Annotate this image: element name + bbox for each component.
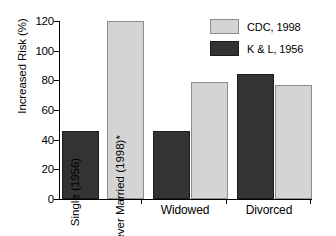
y-tick-mark-60	[54, 110, 59, 111]
x-tick-sep-3	[310, 199, 311, 204]
y-tick-label-100: 100	[28, 45, 54, 57]
bar-divorced-cdc-1998[interactable]	[275, 85, 312, 199]
y-tick-mark-0	[54, 199, 59, 200]
legend-item-cdc-1998[interactable]: CDC, 1998	[210, 19, 303, 34]
legend-item-kl-1956[interactable]: K & L, 1956	[210, 41, 303, 56]
y-tick-mark-40	[54, 140, 59, 141]
y-tick-mark-80	[54, 80, 59, 81]
y-tick-mark-120	[54, 21, 59, 22]
bar-widowed-kl-1956[interactable]	[153, 131, 190, 199]
bar-label-never-married-1998: Never Married (1998)*	[114, 135, 126, 236]
bar-never-married-1998[interactable]: Never Married (1998)*	[107, 21, 144, 199]
x-group-label-divorced: Divorced	[234, 203, 304, 217]
y-tick-label-40: 40	[28, 134, 54, 146]
legend-swatch-cdc-1998	[210, 19, 239, 34]
x-tick-sep-1	[141, 199, 142, 204]
y-axis-title: Increased Risk (%)	[16, 0, 28, 141]
legend-swatch-kl-1956	[210, 41, 239, 56]
x-group-label-widowed: Widowed	[150, 203, 220, 217]
bar-divorced-kl-1956[interactable]	[237, 74, 274, 199]
legend-label-cdc-1998: CDC, 1998	[247, 21, 301, 33]
chart-legend: CDC, 1998 K & L, 1956	[210, 19, 303, 63]
bar-widowed-cdc-1998[interactable]	[191, 82, 228, 199]
bar-label-single-1956: Single (1956)	[69, 158, 81, 226]
bar-chart: Increased Risk (%) 0 20 40 60 80 100 120…	[0, 0, 336, 236]
y-tick-label-20: 20	[28, 163, 54, 175]
x-tick-sep-2	[226, 199, 227, 204]
y-axis-ticks: 0 20 40 60 80 100 120	[28, 0, 54, 236]
y-tick-mark-100	[54, 51, 59, 52]
y-tick-mark-20	[54, 169, 59, 170]
legend-label-kl-1956: K & L, 1956	[247, 43, 303, 55]
y-tick-label-120: 120	[28, 15, 54, 27]
y-tick-label-60: 60	[28, 104, 54, 116]
y-tick-label-80: 80	[28, 74, 54, 86]
y-tick-label-0: 0	[28, 193, 54, 205]
bar-single-1956[interactable]: Single (1956)	[62, 131, 99, 199]
